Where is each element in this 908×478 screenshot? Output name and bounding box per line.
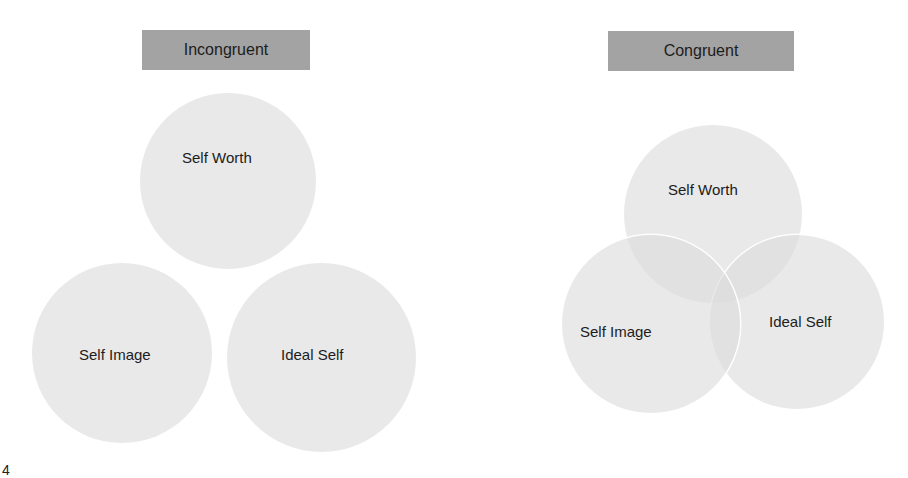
incongruent-label-self-worth: Self Worth [182,149,252,166]
congruent-label-self-image: Self Image [580,323,652,340]
page-number: 4 [2,462,10,478]
congruent-panel: Congruent Self Worth Ideal Self Self Ima… [454,0,908,474]
congruent-title: Congruent [664,42,739,60]
incongruent-circle-self-worth [140,93,316,269]
congruent-header: Congruent [608,31,794,71]
congruent-label-self-worth: Self Worth [668,181,738,198]
incongruent-title: Incongruent [184,41,269,59]
incongruent-label-self-image: Self Image [79,346,151,363]
incongruent-panel: Incongruent Self Worth Self Image Ideal … [0,0,454,474]
incongruent-header: Incongruent [142,30,310,70]
incongruent-label-ideal-self: Ideal Self [281,346,344,363]
congruent-label-ideal-self: Ideal Self [769,313,832,330]
